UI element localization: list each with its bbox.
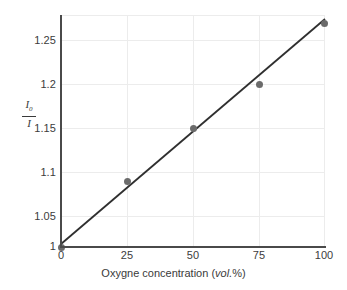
x-axis-line xyxy=(61,246,326,248)
y-axis-line xyxy=(60,15,62,248)
y-tick-label: 1.1 xyxy=(10,167,56,178)
x-tick-label: 75 xyxy=(253,250,265,261)
y-tick-label: 1.2 xyxy=(10,79,56,90)
y-tick-label: 1 xyxy=(10,241,56,252)
chart-figure: 1.25 1.2 1.15 1.1 1.05 1 0 25 50 75 100 … xyxy=(0,0,347,290)
x-tick-label: 100 xyxy=(315,250,334,261)
y-axis-title-numerator: I0 xyxy=(16,99,42,115)
data-point xyxy=(321,20,328,27)
x-tick-label: 0 xyxy=(58,250,64,261)
x-axis-title-text: Oxygne concentration ( xyxy=(101,267,215,279)
data-point xyxy=(124,178,131,185)
x-axis-title: Oxygne concentration (vol.%) xyxy=(0,267,347,280)
data-point xyxy=(256,81,263,88)
x-axis-title-tail: %) xyxy=(232,267,245,279)
x-tick-label: 50 xyxy=(187,250,199,261)
y-tick-label: 1.25 xyxy=(10,35,56,46)
x-axis-title-unit: vol. xyxy=(215,267,232,279)
x-tick-label: 25 xyxy=(121,250,133,261)
plot-area xyxy=(61,15,325,247)
y-tick-label: 1.05 xyxy=(10,211,56,222)
y-axis-title: I0 I xyxy=(16,99,42,129)
y-axis-ticks: 1.25 1.2 1.15 1.1 1.05 1 xyxy=(0,0,56,290)
y-axis-title-denominator: I xyxy=(16,118,42,129)
data-point xyxy=(190,125,197,132)
